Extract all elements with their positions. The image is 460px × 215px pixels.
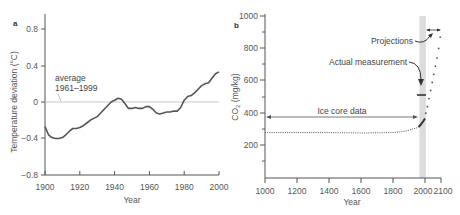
y-tick-label: 0.4	[26, 61, 38, 71]
panel-b-x-ticks	[265, 178, 441, 183]
x-tick-label: 1000	[256, 186, 275, 196]
ice-core-series-line	[265, 127, 419, 133]
y-tick-label: −0.4	[21, 133, 38, 143]
projections-series-dots	[425, 36, 441, 114]
panel-b-x-axis-title: Year	[343, 197, 360, 207]
average-label: average	[55, 73, 86, 83]
panel-a-y-axis-title: Temperature deviation (°C)	[9, 51, 19, 153]
average-period-label: 1961–1999	[55, 83, 98, 93]
y-tick-label: 600	[244, 75, 258, 85]
figure: a 0.8 0.4 0 −0.4 −0.8 1900 1920	[0, 0, 460, 215]
x-tick-label: 1900	[36, 182, 55, 192]
panel-a-label: a	[13, 19, 18, 28]
panel-b-label: b	[234, 21, 239, 30]
panel-a-y-ticks: 0.8 0.4 0 −0.4 −0.8	[21, 24, 45, 180]
panel-a: a 0.8 0.4 0 −0.4 −0.8 1900 1920	[9, 14, 229, 205]
y-tick-label: 0	[33, 97, 38, 107]
measurement-period-band	[419, 16, 425, 178]
actual-measurement-leader	[409, 62, 421, 80]
projections-range-arrow	[426, 29, 441, 32]
projections-label: Projections	[371, 36, 413, 46]
panel-a-x-ticks: 1900 1920 1940 1960 1980 2000	[36, 171, 229, 192]
x-tick-label: 1400	[320, 186, 339, 196]
x-tick-label: 2000	[210, 182, 229, 192]
panel-b-y-ticks	[260, 16, 265, 161]
y-tick-label: −0.8	[21, 170, 38, 180]
panel-b: b 1000 800 600 400 200	[230, 11, 453, 207]
y-tick-label: 800	[244, 43, 258, 53]
x-tick-label: 1200	[288, 186, 307, 196]
actual-measurement-label: Actual measurement	[329, 57, 408, 67]
x-tick-label: 1600	[352, 186, 371, 196]
x-tick-label: 2100	[434, 186, 453, 196]
y-tick-label: 0.8	[26, 24, 38, 34]
x-tick-label: 1960	[140, 182, 159, 192]
x-tick-label: 1940	[105, 182, 124, 192]
ice-core-label: Ice core data	[317, 106, 366, 116]
y-tick-label: 400	[244, 108, 258, 118]
y-tick-label: 200	[244, 140, 258, 150]
x-tick-label: 1800	[384, 186, 403, 196]
x-tick-label: 1920	[70, 182, 89, 192]
x-tick-label: 1980	[175, 182, 194, 192]
panel-a-x-axis-title: Year	[123, 195, 140, 205]
panel-b-y-axis-title: CO2 (mg/kg)	[230, 73, 241, 120]
x-tick-label: 2000	[414, 186, 433, 196]
average-leader-line	[58, 94, 61, 101]
y-tick-label: 1000	[239, 11, 258, 21]
